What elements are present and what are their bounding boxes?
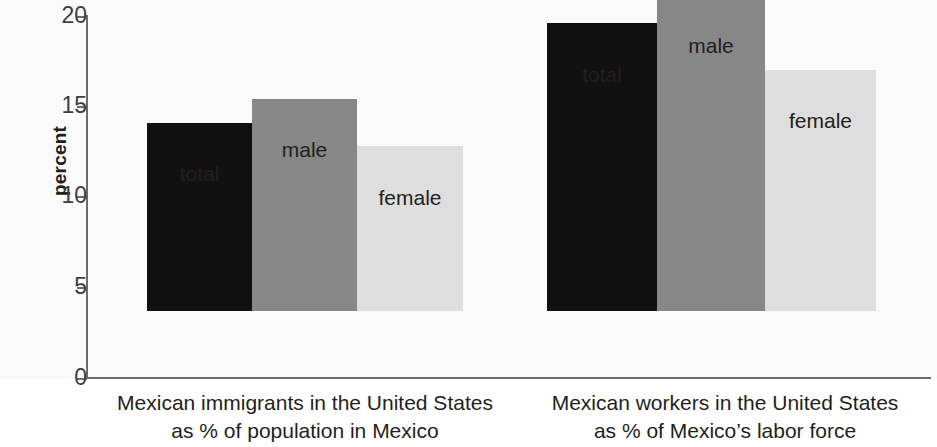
bar-label-group2-female: female	[765, 110, 876, 131]
bar-label-group1-male: male	[252, 139, 357, 160]
bar-group1-female	[357, 146, 463, 311]
bar-group2-female	[765, 70, 876, 311]
bar-label-group1-total: total	[147, 163, 252, 184]
bar-label-group2-total: total	[547, 64, 657, 85]
plot-area: total male female total male female	[0, 0, 937, 379]
group-caption-1-line2: as % of population in Mexico	[90, 417, 520, 445]
bar-group1-total	[147, 123, 252, 311]
bar-label-group1-female: female	[357, 187, 463, 208]
group-caption-2-line1: Mexican workers in the United States	[520, 389, 930, 417]
bar-group1-male	[252, 99, 357, 311]
group-caption-1-line1: Mexican immigrants in the United States	[90, 389, 520, 417]
group-caption-2: Mexican workers in the United States as …	[520, 389, 930, 445]
bar-label-group2-male: male	[657, 35, 765, 56]
group-caption-2-line2: as % of Mexico’s labor force	[520, 417, 930, 445]
bar-chart: percent 20 15 10 5 0 total male female t…	[0, 0, 937, 447]
group-caption-1: Mexican immigrants in the United States …	[90, 389, 520, 445]
